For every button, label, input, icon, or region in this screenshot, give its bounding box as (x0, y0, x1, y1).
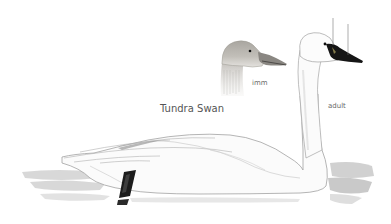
adult-eye (324, 43, 327, 46)
adult-label: adult (328, 103, 346, 110)
tundra-swan-illustration: Tundra Swan imm adult (0, 0, 391, 224)
immature-label: imm (252, 80, 268, 87)
adult-neck (298, 50, 322, 158)
immature-eye (249, 50, 252, 53)
species-name-label: Tundra Swan (160, 104, 224, 114)
